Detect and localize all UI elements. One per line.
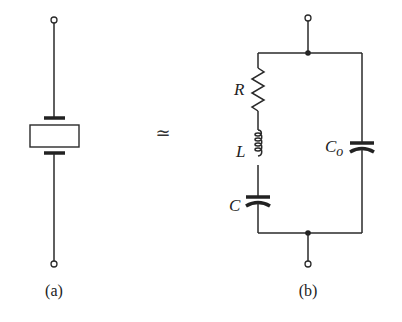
label-series-capacitor: C <box>229 196 241 215</box>
label-shunt-capacitor: Co <box>325 137 343 159</box>
label-resistor: R <box>233 80 245 99</box>
inductor-icon <box>255 130 262 156</box>
label-co-subscript: o <box>336 144 343 159</box>
resistor-icon <box>252 68 264 111</box>
terminal-bottom-a <box>51 261 57 267</box>
caption-b: (b) <box>299 282 318 300</box>
terminal-top-b <box>305 15 311 21</box>
terminal-top-a <box>51 17 57 23</box>
panel-b-equivalent-circuit: R L C Co (b) <box>229 15 374 300</box>
label-co-main: C <box>325 137 337 156</box>
crystal-equivalent-circuit-diagram: (a) ≃ R L C Co (b) <box>0 0 402 322</box>
terminal-bottom-b <box>305 261 311 267</box>
panel-a-crystal-symbol: (a) <box>30 17 79 300</box>
crystal-body <box>30 125 79 147</box>
caption-a: (a) <box>45 282 63 300</box>
label-inductor: L <box>235 142 245 161</box>
approx-equal-symbol: ≃ <box>155 122 170 143</box>
